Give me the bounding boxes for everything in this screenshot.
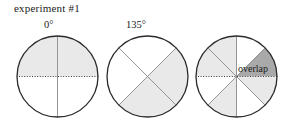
angle-label-first-circle: 0° (44, 19, 53, 30)
experiment-figure: experiment #1 0° 135° overlap (0, 0, 290, 130)
sector-315-360 (237, 77, 278, 106)
circle-0-degrees (17, 36, 98, 117)
experiment-title: experiment #1 (14, 2, 80, 14)
angle-label-second-circle: 135° (126, 19, 146, 30)
overlap-label: overlap (238, 63, 268, 74)
circle-overlap (196, 36, 277, 117)
circle-135-degrees (107, 36, 188, 117)
sector-225-270 (208, 77, 237, 118)
